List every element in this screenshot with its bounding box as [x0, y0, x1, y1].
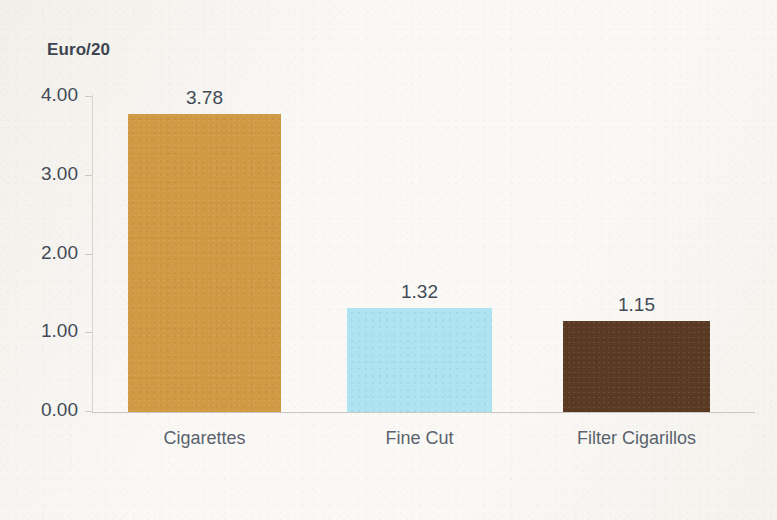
x-axis-category-label: Fine Cut [325, 428, 514, 449]
y-axis-tick-label: 2.00 [41, 242, 78, 264]
y-axis-tick-mark [85, 254, 92, 255]
y-axis-tick-mark [85, 96, 92, 97]
y-axis-tick-label: 3.00 [41, 163, 78, 185]
bar [128, 114, 281, 412]
bar [347, 308, 492, 412]
y-axis-tick-label: 4.00 [41, 84, 78, 106]
bar [563, 321, 710, 412]
plot-area: 4.003.002.001.000.00 3.78Cigarettes1.32F… [92, 97, 755, 412]
y-axis-tick-mark [85, 332, 92, 333]
y-axis-tick-label: 0.00 [41, 399, 78, 421]
y-axis-tick-mark [85, 411, 92, 412]
bar-value-label: 1.32 [347, 281, 492, 303]
bar-group: 1.15Filter Cigarillos [563, 97, 710, 412]
y-axis-tick-mark [85, 175, 92, 176]
bar-chart: Euro/20 4.003.002.001.000.00 3.78Cigaret… [0, 0, 777, 520]
y-axis-tick-label: 1.00 [41, 320, 78, 342]
bar-group: 1.32Fine Cut [347, 97, 492, 412]
bar-value-label: 1.15 [563, 294, 710, 316]
x-axis-category-label: Cigarettes [106, 428, 303, 449]
y-axis-title: Euro/20 [47, 40, 110, 60]
bar-value-label: 3.78 [128, 87, 281, 109]
x-axis-category-label: Filter Cigarillos [541, 428, 732, 449]
x-axis-baseline [92, 412, 755, 413]
bar-group: 3.78Cigarettes [128, 97, 281, 412]
